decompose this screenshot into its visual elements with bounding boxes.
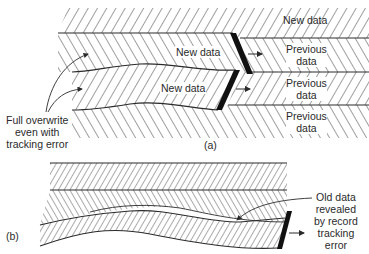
full-overwrite-line2: even with: [6, 126, 68, 138]
old-data-line4: tracking: [314, 227, 358, 239]
previous-data-3-line1: Previous: [286, 110, 327, 122]
label-previous-data-1: Previous data: [286, 43, 327, 67]
old-data-line1: Old data: [314, 191, 358, 203]
old-data-line3: by record: [314, 215, 358, 227]
caption-b: (b): [6, 230, 19, 242]
label-previous-data-3: Previous data: [286, 110, 327, 134]
label-full-overwrite: Full overwrite even with tracking error: [6, 114, 68, 150]
label-new-data-top: New data: [283, 14, 327, 26]
label-old-data-revealed: Old data revealed by record tracking err…: [314, 191, 358, 251]
full-overwrite-line1: Full overwrite: [6, 114, 68, 126]
previous-data-1-line1: Previous: [286, 43, 327, 55]
previous-data-1-line2: data: [286, 55, 327, 67]
previous-data-2-line2: data: [286, 89, 327, 101]
label-new-data-track2: New data: [160, 82, 206, 94]
old-data-line2: revealed: [314, 203, 358, 215]
old-data-line5: error: [314, 239, 358, 251]
label-previous-data-2: Previous data: [286, 77, 327, 101]
previous-data-2-line1: Previous: [286, 77, 327, 89]
part-b-tracks: [40, 163, 290, 248]
full-overwrite-line3: tracking error: [6, 138, 68, 150]
label-new-data-track1: New data: [175, 46, 221, 58]
caption-a: (a): [204, 139, 217, 151]
previous-data-3-line2: data: [286, 122, 327, 134]
